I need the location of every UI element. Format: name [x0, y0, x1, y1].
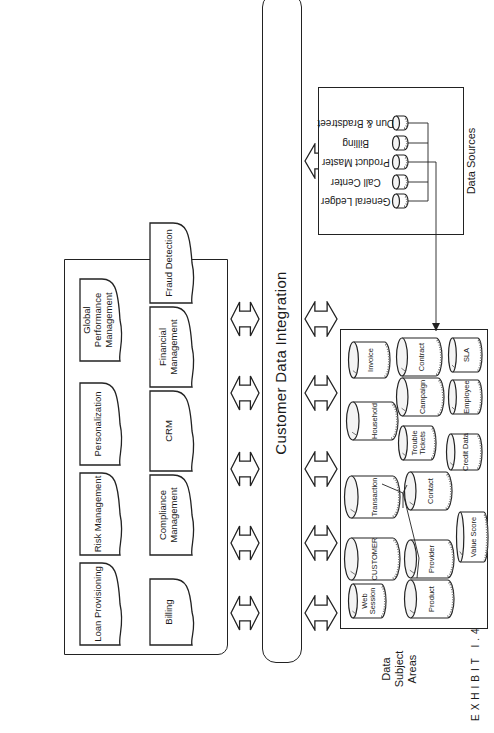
source-feed-lines [0, 0, 494, 733]
diagram-canvas: EXHIBIT I.4 CDI Reconciles Data Loan Pro… [0, 0, 494, 733]
